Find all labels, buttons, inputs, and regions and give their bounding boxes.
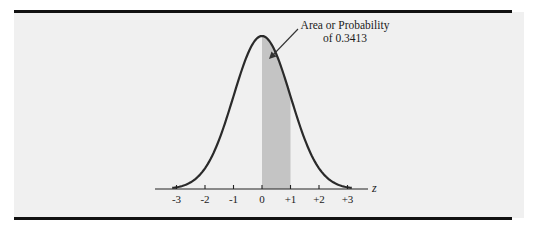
annotation-line-2: of 0.3413: [323, 32, 367, 44]
bottom-rule: [14, 217, 512, 220]
x-axis-label: z: [371, 181, 377, 195]
top-rule: [14, 10, 512, 13]
x-tick-label: +1: [285, 193, 297, 205]
annotation-line-1: Area or Probability: [301, 19, 390, 32]
x-tick-label: -3: [172, 193, 182, 205]
x-tick-label: 0: [259, 193, 265, 205]
x-tick-label: -2: [200, 193, 209, 205]
normal-distribution-figure: -3-2-10+1+2+3 z Area or Probability of 0…: [0, 0, 536, 233]
x-tick-label: +2: [313, 193, 325, 205]
x-tick-label: -1: [229, 193, 238, 205]
x-tick-label: +3: [342, 193, 354, 205]
